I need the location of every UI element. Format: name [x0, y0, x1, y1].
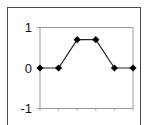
y-tick-labels: 10-1 — [20, 20, 32, 116]
series-line — [40, 40, 133, 68]
data-point-marker — [36, 64, 43, 71]
data-point-marker — [92, 36, 99, 43]
line-chart: 10-1 — [0, 0, 147, 125]
data-point-marker — [129, 64, 136, 71]
chart-series — [36, 36, 136, 72]
y-tick-label: 1 — [25, 20, 32, 35]
data-point-marker — [55, 64, 62, 71]
data-point-marker — [111, 64, 118, 71]
data-point-marker — [74, 36, 81, 43]
y-tick-label: 0 — [25, 61, 32, 76]
y-tick-label: -1 — [20, 101, 32, 116]
